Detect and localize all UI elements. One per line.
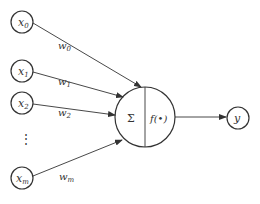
edge-xm [33,140,122,176]
input-node-x1: x1 [11,60,33,82]
weight-w0: w0 [58,40,72,53]
edge-x0 [33,23,141,87]
svg-text:y: y [233,112,241,125]
edge-x2 [33,104,115,115]
svg-text:x1: x1 [18,65,29,79]
weight-w1: w1 [58,76,71,89]
svg-text:x0: x0 [18,16,29,30]
input-node-x0: x0 [11,11,33,33]
neuron-node: Σ f(•) [115,87,175,147]
edge-x1 [33,72,123,97]
output-node-y: y [227,107,249,129]
svg-text:xm: xm [16,172,29,186]
input-node-x2: x2 [11,92,33,114]
neuron-diagram: x0 x1 x2 ⋮ xm w0 w1 w2 wm Σ f(•) y [0,0,260,204]
ellipsis: ⋮ [20,132,32,146]
activation-function: f(•) [149,113,168,124]
input-node-xm: xm [11,167,33,189]
weight-wm: wm [59,171,75,184]
sum-symbol: Σ [127,112,135,125]
svg-text:x2: x2 [18,97,29,111]
